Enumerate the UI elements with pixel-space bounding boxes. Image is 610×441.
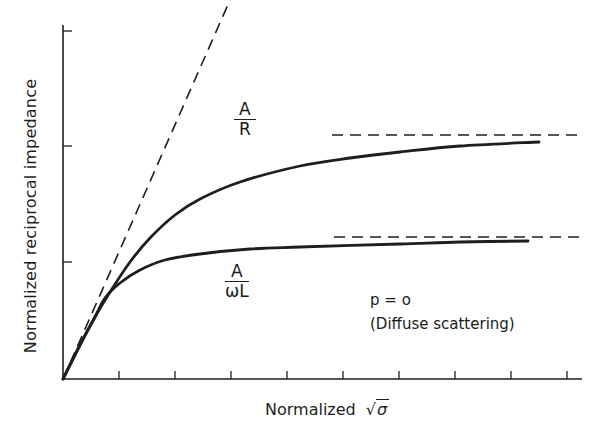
fraction-denominator: R bbox=[234, 120, 256, 139]
fraction-denominator: ωL bbox=[225, 282, 249, 301]
y-ticks bbox=[63, 31, 72, 262]
annotation-line-2: (Diffuse scattering) bbox=[370, 312, 515, 336]
x-axis-label: Normalized√σ bbox=[265, 400, 389, 419]
curve-label-a-over-r: A R bbox=[234, 100, 256, 139]
annotation-diffuse-scattering: p = o (Diffuse scattering) bbox=[370, 288, 515, 336]
fraction-numerator: A bbox=[225, 262, 249, 282]
y-axis-label: Normalized reciprocal impedance bbox=[21, 79, 40, 353]
sqrt-symbol: √σ bbox=[366, 400, 389, 419]
x-axis-label-text: Normalized bbox=[265, 400, 356, 419]
series-initial-slope-asymptote bbox=[63, 0, 230, 379]
radical-sign: √ bbox=[366, 400, 376, 419]
annotation-line-1: p = o bbox=[370, 288, 515, 312]
chart-canvas bbox=[0, 0, 610, 441]
curve-label-a-over-omega-l: A ωL bbox=[225, 262, 249, 301]
series-a-r bbox=[63, 142, 539, 379]
fraction-numerator: A bbox=[234, 100, 256, 120]
x-ticks bbox=[119, 371, 567, 379]
sigma-symbol: σ bbox=[376, 399, 389, 419]
